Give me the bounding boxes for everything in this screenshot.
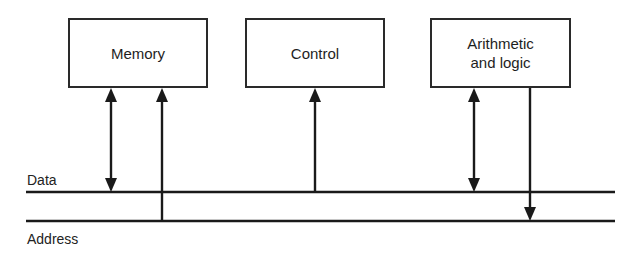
data-control-arrow [309, 88, 321, 192]
wiring [0, 0, 639, 253]
arrowhead-down-icon [468, 178, 480, 192]
address-memory-arrow [156, 88, 168, 221]
arrowhead-down-icon [105, 178, 117, 192]
arrowhead-down-icon [524, 207, 536, 221]
arrowhead-up-icon [309, 88, 321, 102]
alu-data-arrow [468, 88, 480, 192]
arrowhead-up-icon [468, 88, 480, 102]
memory-data-arrow [105, 88, 117, 192]
alu-address-arrow [524, 88, 536, 221]
arrowhead-up-icon [105, 88, 117, 102]
arrowhead-up-icon [156, 88, 168, 102]
